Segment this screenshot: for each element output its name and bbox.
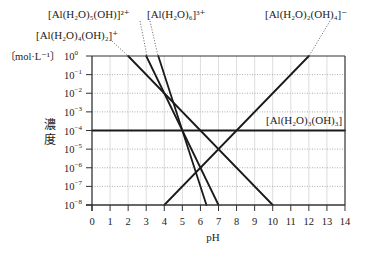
y-tick-labels: 10010−110−210−310−410−510−610−710−8 bbox=[64, 49, 82, 211]
x-tick-label: 11 bbox=[286, 216, 296, 227]
x-tick-label: 12 bbox=[304, 216, 315, 227]
x-tick-label: 5 bbox=[180, 216, 185, 227]
x-tick-label: 0 bbox=[89, 216, 94, 227]
axes bbox=[86, 56, 345, 211]
label-hex-aqua: [Al(H₂O)₆]³⁺ bbox=[147, 8, 206, 21]
y-tick-label: 100 bbox=[64, 49, 79, 62]
x-tick-label: 2 bbox=[126, 216, 131, 227]
x-tick-label: 13 bbox=[322, 216, 333, 227]
x-tick-label: 9 bbox=[252, 216, 257, 227]
y-unit-label: 〔mol·L⁻¹〕 bbox=[5, 50, 60, 62]
leader-hex-aqua bbox=[150, 21, 158, 56]
label-di-tetrahydroxo: [Al(H₂O)₂(OH)₄]⁻ bbox=[265, 8, 347, 21]
x-tick-label: 14 bbox=[340, 216, 351, 227]
label-penta-hydroxo: [Al(H₂O)₅(OH)]²⁺ bbox=[48, 8, 130, 21]
y-tick-label: 10−8 bbox=[64, 198, 82, 211]
x-axis-label: pH bbox=[206, 231, 220, 243]
y-tick-label: 10−4 bbox=[64, 124, 82, 137]
leader-penta-hydroxo bbox=[140, 21, 147, 56]
y-tick-label: 10−5 bbox=[64, 142, 82, 155]
leader-tetra-dihydroxo bbox=[112, 41, 128, 56]
x-tick-label: 8 bbox=[234, 216, 239, 227]
y-axis-label-2: 度 bbox=[44, 132, 56, 147]
y-tick-label: 10−1 bbox=[64, 68, 82, 81]
label-tri-trihydroxo: [Al(H₂O)₃(OH)₃] bbox=[266, 114, 342, 127]
x-tick-label: 10 bbox=[267, 216, 278, 227]
y-tick-label: 10−2 bbox=[64, 86, 82, 99]
x-tick-label: 7 bbox=[216, 216, 221, 227]
y-tick-label: 10−3 bbox=[64, 105, 82, 118]
chart-svg: 10010−110−210−310−410−510−610−710−8 0123… bbox=[0, 0, 365, 255]
x-tick-label: 3 bbox=[144, 216, 149, 227]
label-tetra-dihydroxo: [Al(H₂O)₄(OH)₂]⁺ bbox=[36, 29, 118, 42]
y-tick-label: 10−7 bbox=[64, 179, 82, 192]
leader-di-tetrahydroxo bbox=[309, 21, 330, 56]
y-tick-label: 10−6 bbox=[64, 161, 82, 174]
x-tick-label: 1 bbox=[107, 216, 112, 227]
x-tick-label: 4 bbox=[162, 216, 168, 227]
leader-lines bbox=[112, 21, 330, 56]
x-tick-labels: 01234567891011121314 bbox=[89, 216, 351, 227]
y-axis-label-1: 濃 bbox=[44, 118, 56, 132]
x-tick-label: 6 bbox=[198, 216, 203, 227]
